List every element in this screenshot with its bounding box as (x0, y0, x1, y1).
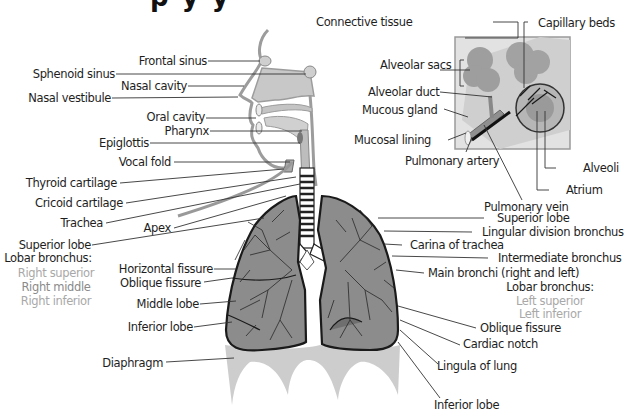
label-superior-lobe-left: Superior lobe (497, 211, 569, 225)
label-cricoid-cartilage: Cricoid cartilage (35, 196, 123, 210)
label-lingular-division-bronchus: Lingular division bronchus (482, 225, 624, 239)
label-left-superior: Left superior (490, 294, 610, 308)
label-lingula-of-lung: Lingula of lung (437, 359, 517, 373)
label-trachea: Trachea (61, 216, 103, 230)
label-alveoli: Alveoli (583, 161, 619, 175)
right-lung (226, 196, 306, 350)
label-intermediate-bronchus: Intermediate bronchus (498, 251, 622, 265)
respiratory-system-diagram: p y y (0, 0, 631, 418)
label-apex: Apex (144, 221, 171, 235)
label-alveolar-duct: Alveolar duct (368, 85, 439, 99)
label-thyroid-cartilage: Thyroid cartilage (26, 176, 117, 190)
label-diaphragm: Diaphragm (102, 356, 163, 370)
label-atrium: Atrium (566, 183, 603, 197)
diaphragm (225, 345, 400, 405)
label-mucous-gland: Mucous gland (362, 103, 437, 117)
label-lobar-bronchus-left: Lobar bronchus: (490, 280, 610, 294)
label-vocal-fold: Vocal fold (119, 155, 171, 169)
label-oblique-fissure-left: Oblique fissure (480, 321, 561, 335)
label-capillary-beds: Capillary beds (538, 16, 615, 30)
label-nasal-cavity: Nasal cavity (121, 79, 187, 93)
label-carina-of-trachea: Carina of trachea (410, 238, 504, 252)
alveoli-inset (455, 37, 570, 149)
label-cardiac-notch: Cardiac notch (463, 337, 538, 351)
label-right-inferior: Right inferior (8, 294, 104, 308)
label-sphenoid-sinus: Sphenoid sinus (33, 67, 115, 81)
label-right-superior: Right superior (8, 266, 104, 280)
label-frontal-sinus: Frontal sinus (139, 54, 207, 68)
label-oral-cavity: Oral cavity (146, 110, 205, 124)
label-main-bronchi: Main bronchi (right and left) (428, 266, 579, 280)
label-inferior-lobe-right: Inferior lobe (128, 320, 193, 334)
left-lung (318, 196, 398, 350)
label-epiglottis: Epiglottis (99, 136, 149, 150)
label-alveolar-sacs: Alveolar sacs (380, 58, 451, 72)
label-connective-tissue: Connective tissue (316, 15, 412, 29)
label-oblique-fissure-right: Oblique fissure (120, 276, 201, 290)
label-right-middle: Right middle (8, 280, 104, 294)
label-pharynx: Pharynx (165, 124, 209, 138)
label-superior-lobe-right: Superior lobe (19, 238, 91, 252)
label-nasal-vestibule: Nasal vestibule (28, 91, 111, 105)
label-lobar-bronchus-right: Lobar bronchus: (0, 251, 96, 265)
label-left-inferior: Left inferior (490, 307, 610, 321)
label-pulmonary-artery: Pulmonary artery (405, 154, 499, 168)
label-mucosal-lining: Mucosal lining (354, 133, 431, 147)
label-middle-lobe: Middle lobe (137, 297, 199, 311)
label-inferior-lobe-left: Inferior lobe (434, 398, 499, 412)
label-horizontal-fissure: Horizontal fissure (119, 262, 213, 276)
